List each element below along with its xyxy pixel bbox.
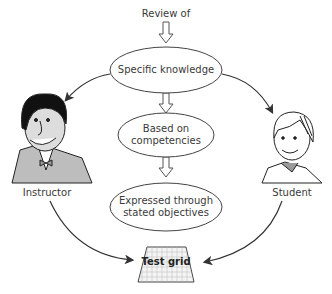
student-cartoon-icon <box>262 112 322 183</box>
node-line: competencies <box>131 135 201 147</box>
node-line: stated objectives <box>123 207 209 219</box>
test-grid-label: Test grid <box>138 256 194 268</box>
arrow-to-instructor <box>66 74 110 100</box>
top-label-review-of: Review of <box>130 8 202 20</box>
node-based-on-competencies: Based on competencies <box>118 122 214 148</box>
node-line: Specific knowledge <box>118 64 214 76</box>
arrow-to-student <box>222 74 272 112</box>
instructor-cartoon-icon <box>12 94 92 183</box>
instructor-label: Instructor <box>12 187 82 199</box>
node-expressed-through-objectives: Expressed through stated objectives <box>110 194 222 220</box>
node-specific-knowledge: Specific knowledge <box>110 58 222 82</box>
node-line: Expressed through <box>119 195 213 207</box>
node-line: Based on <box>143 123 189 135</box>
student-label: Student <box>262 187 322 199</box>
